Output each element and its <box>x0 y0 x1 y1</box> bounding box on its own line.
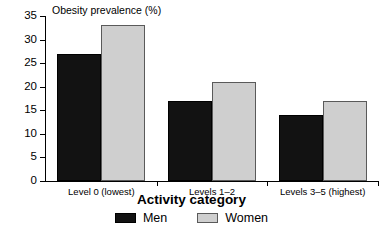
y-axis-tick-label: 30 <box>7 34 37 45</box>
bar-women-group-2 <box>212 82 256 181</box>
legend-label-men: Men <box>143 211 167 225</box>
bar-men-group-3 <box>279 115 323 181</box>
y-axis-tick-label: 35 <box>7 10 37 21</box>
y-axis-tick-label: 10 <box>7 128 37 139</box>
x-axis-tick <box>378 181 379 186</box>
legend-label-women: Women <box>225 211 268 225</box>
y-axis-tick-label: 0 <box>7 175 37 186</box>
x-axis-line <box>45 181 378 182</box>
legend-swatch-women <box>197 213 218 223</box>
bars-layer <box>46 16 378 181</box>
legend-item-women: Women <box>197 211 268 225</box>
y-axis-tick-label: 20 <box>7 81 37 92</box>
bar-men-group-2 <box>168 101 212 181</box>
y-axis-tick-label: 25 <box>7 57 37 68</box>
bar-women-group-3 <box>323 101 367 181</box>
obesity-prevalence-bar-chart: Obesity prevalence (%) 05101520253035 Le… <box>0 0 383 232</box>
y-axis-tick <box>40 181 46 182</box>
legend-item-men: Men <box>115 211 167 225</box>
x-axis-title: Activity category <box>0 192 383 207</box>
y-axis-title: Obesity prevalence (%) <box>52 4 161 16</box>
bar-women-group-1 <box>101 25 145 181</box>
y-axis-tick-label: 15 <box>7 104 37 115</box>
y-axis-tick-label: 5 <box>7 151 37 162</box>
legend-swatch-men <box>115 213 136 223</box>
chart-legend: MenWomen <box>0 211 383 225</box>
bar-men-group-1 <box>57 54 101 181</box>
